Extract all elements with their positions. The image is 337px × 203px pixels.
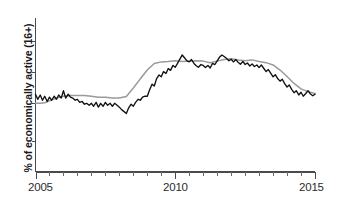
chart-plot-area (0, 0, 337, 203)
y-axis-ticks (32, 42, 36, 142)
data-series-group (36, 55, 316, 114)
line-gray-series (36, 59, 316, 104)
x-axis-ticks (37, 172, 316, 179)
axes-group (32, 18, 316, 179)
line-black-series (36, 55, 316, 114)
x-tick-label-end: 2015 (299, 181, 324, 193)
chart-figure: % of economically active (16+) 2005 2010… (0, 0, 337, 203)
x-tick-label-start: 2005 (28, 181, 53, 193)
x-tick-label-middle: 2010 (163, 181, 188, 193)
